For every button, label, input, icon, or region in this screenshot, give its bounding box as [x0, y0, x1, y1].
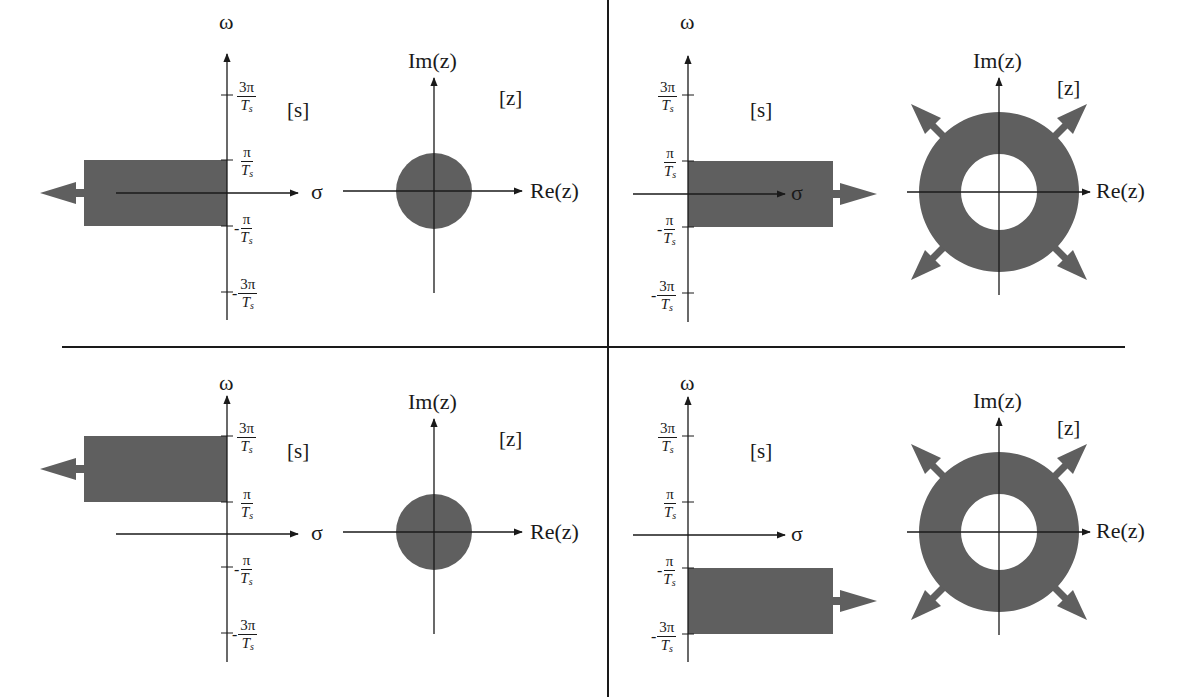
sigma-axis-label: σ — [791, 182, 803, 204]
tick-label-neg-3pi: - 3πTs — [232, 277, 257, 311]
sigma-axis-label: σ — [791, 523, 803, 545]
z-plane-tag: [z] — [499, 429, 522, 450]
tick-label-3pi: 3πTs — [657, 80, 677, 114]
re-axis-label: Re(z) — [530, 521, 579, 543]
region-strip — [688, 568, 833, 634]
z-plane-tag: [z] — [499, 88, 522, 109]
im-axis-label: Im(z) — [408, 391, 457, 413]
arrow-up-right-icon — [1055, 104, 1087, 136]
tick-label-neg-3pi: - 3πTs — [651, 620, 676, 654]
arrow-up-right-icon — [1055, 444, 1087, 476]
tick-label-neg-pi: - πTs — [657, 554, 676, 588]
tick-label-pi: πTs — [240, 487, 253, 521]
im-axis-label: Im(z) — [973, 50, 1022, 72]
im-axis-label: Im(z) — [408, 50, 457, 72]
omega-axis-label: ω — [680, 11, 694, 33]
panel-bottom-right-z-plane — [907, 418, 1090, 635]
panel-top-left-s-plane — [40, 54, 298, 320]
re-axis-label: Re(z) — [530, 180, 579, 202]
panel-bottom-left-s-plane — [40, 396, 298, 662]
panel-top-left-z-plane — [343, 78, 522, 293]
tick-label-neg-pi: - πTs — [234, 212, 253, 246]
s-plane-tag: [s] — [750, 441, 772, 462]
arrow-up-left-icon — [911, 104, 943, 136]
omega-axis-label: ω — [219, 11, 233, 33]
omega-axis-label: ω — [219, 372, 233, 394]
arrow-up-left-icon — [911, 444, 943, 476]
s-to-z-mapping-diagram — [0, 0, 1178, 697]
omega-axis-label: ω — [680, 372, 694, 394]
tick-label-3pi: 3πTs — [657, 421, 677, 455]
z-plane-tag: [z] — [1057, 78, 1080, 99]
panel-top-right-z-plane — [907, 78, 1090, 295]
arrow-right-icon — [831, 590, 877, 612]
arrow-down-left-icon — [911, 588, 943, 620]
tick-label-pi: πTs — [663, 146, 676, 180]
panel-bottom-left-z-plane — [343, 419, 522, 634]
z-plane-tag: [z] — [1057, 418, 1080, 439]
tick-label-3pi: 3πTs — [236, 421, 256, 455]
arrow-right-icon — [831, 183, 877, 205]
arrow-left-icon — [40, 182, 86, 204]
tick-label-neg-3pi: - 3πTs — [651, 279, 676, 313]
tick-label-pi: πTs — [663, 487, 676, 521]
tick-label-neg-pi: - πTs — [234, 553, 253, 587]
tick-label-pi: πTs — [240, 145, 253, 179]
tick-label-3pi: 3πTs — [236, 80, 256, 114]
arrow-down-right-icon — [1055, 248, 1087, 280]
arrow-left-icon — [40, 458, 86, 480]
region-strip — [84, 436, 227, 502]
arrow-down-left-icon — [911, 248, 943, 280]
sigma-axis-label: σ — [311, 522, 323, 544]
re-axis-label: Re(z) — [1096, 180, 1145, 202]
s-plane-tag: [s] — [750, 100, 772, 121]
tick-label-neg-3pi: - 3πTs — [232, 618, 257, 652]
arrow-down-right-icon — [1055, 588, 1087, 620]
re-axis-label: Re(z) — [1096, 520, 1145, 542]
im-axis-label: Im(z) — [973, 390, 1022, 412]
s-plane-tag: [s] — [287, 100, 309, 121]
sigma-axis-label: σ — [311, 181, 323, 203]
tick-label-neg-pi: - πTs — [657, 213, 676, 247]
s-plane-tag: [s] — [287, 441, 309, 462]
